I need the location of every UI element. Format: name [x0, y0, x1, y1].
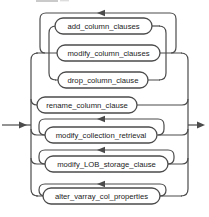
node-label: modify_LOB_storage_clause — [57, 160, 156, 169]
entry-arrow-icon — [19, 122, 27, 129]
collection-loop-arrow-icon — [97, 116, 105, 122]
node-label: rename_column_clause — [46, 101, 128, 110]
lob-loop-arrow-icon — [97, 147, 105, 153]
node-label: modify_collection_retrieval — [56, 131, 147, 140]
node-modify-column-clauses: modify_column_clauses — [57, 45, 160, 61]
node-label: add_column_clauses — [67, 22, 139, 31]
node-modify-collection-retrieval: modify_collection_retrieval — [45, 127, 157, 143]
diagram-nodes: add_column_clauses modify_column_clauses… — [37, 18, 168, 204]
node-modify-lob-storage-clause: modify_LOB_storage_clause — [45, 156, 168, 172]
node-label: drop_column_clause — [68, 76, 139, 85]
node-label: modify_column_clauses — [67, 49, 149, 58]
node-rename-column-clause: rename_column_clause — [37, 97, 137, 113]
node-drop-column-clause: drop_column_clause — [58, 72, 148, 88]
node-add-column-clauses: add_column_clauses — [55, 18, 152, 34]
exit-arrow-icon — [197, 122, 205, 129]
outer-left-rail — [31, 53, 38, 196]
syntax-diagram: add_column_clauses modify_column_clauses… — [0, 0, 209, 217]
cropped-heading-remnant — [36, 0, 69, 2]
varray-loop-arrow-icon — [97, 181, 105, 187]
outer-right-rail — [181, 53, 188, 196]
node-label: alter_varray_col_properties — [55, 192, 148, 201]
group-loop-arrow-icon — [97, 10, 105, 16]
railroad-diagram-canvas: add_column_clauses modify_column_clauses… — [0, 0, 209, 217]
node-alter-varray-col-properties: alter_varray_col_properties — [43, 188, 160, 204]
